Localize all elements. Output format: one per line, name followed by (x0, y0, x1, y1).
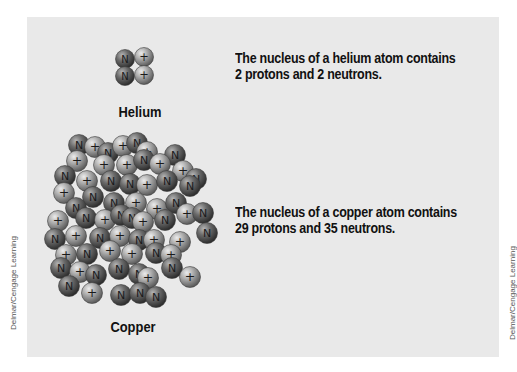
neutron-particle: N (86, 265, 107, 286)
neutron-particle: N (180, 176, 201, 197)
svg-text:N: N (121, 71, 128, 82)
proton-particle: + (137, 175, 158, 196)
svg-text:N: N (161, 214, 169, 227)
neutron-particle: N (76, 208, 97, 229)
neutron-particle: N (197, 223, 218, 244)
svg-text:N: N (126, 178, 134, 191)
neutron-particle: N (101, 171, 122, 192)
svg-text:+: + (185, 269, 196, 284)
credit-right: Delmar/Cengage Learning (508, 246, 517, 340)
proton-particle: + (82, 283, 103, 304)
svg-text:+: + (72, 153, 83, 168)
svg-text:N: N (51, 233, 59, 246)
svg-text:+: + (142, 177, 153, 192)
svg-text:N: N (92, 269, 100, 282)
neutron-particle: N (116, 50, 135, 69)
svg-text:N: N (199, 207, 207, 220)
svg-text:N: N (117, 289, 125, 302)
neutron-particle: N (59, 276, 80, 297)
svg-text:+: + (115, 228, 126, 243)
proton-particle: + (135, 48, 154, 67)
svg-text:N: N (171, 149, 179, 162)
svg-text:N: N (75, 139, 83, 152)
svg-text:N: N (107, 175, 115, 188)
proton-particle: + (180, 267, 201, 288)
svg-text:+: + (75, 264, 86, 279)
svg-text:N: N (82, 212, 90, 225)
svg-text:N: N (83, 248, 91, 261)
helium-caption-line1: The nucleus of a helium atom contains (235, 50, 455, 66)
neutron-particle: N (109, 259, 130, 280)
svg-text:N: N (152, 291, 160, 304)
svg-text:N: N (152, 247, 160, 260)
copper-label: Copper (108, 318, 158, 335)
svg-text:+: + (100, 212, 111, 227)
neutron-particle: N (146, 287, 167, 308)
svg-text:N: N (140, 154, 148, 167)
svg-text:N: N (115, 263, 123, 276)
svg-text:N: N (57, 262, 65, 275)
neutron-particle: N (111, 285, 132, 306)
svg-text:+: + (182, 206, 193, 221)
svg-text:N: N (61, 170, 69, 183)
helium-caption: The nucleus of a helium atom contains 2 … (235, 50, 455, 82)
copper-nucleus: N+N+N+N+++N++NN+NN+NN+NNN++N++N+NN+NNN+N… (45, 133, 218, 308)
proton-particle: + (135, 66, 154, 85)
svg-text:N: N (163, 175, 171, 188)
neutron-particle: N (155, 210, 176, 231)
neutron-particle: N (157, 171, 178, 192)
svg-text:N: N (65, 280, 73, 293)
helium-label: Helium (118, 103, 163, 120)
svg-text:+: + (138, 214, 149, 229)
svg-text:N: N (186, 180, 194, 193)
credit-left: Delmar/Cengage Learning (9, 236, 18, 330)
copper-caption: The nucleus of a copper atom contains 29… (235, 204, 457, 236)
neutron-particle: N (193, 203, 214, 224)
proton-particle: + (133, 212, 154, 233)
svg-text:N: N (203, 227, 211, 240)
svg-text:+: + (127, 246, 138, 261)
svg-text:+: + (71, 228, 82, 243)
helium-nucleus: N+N+ (116, 48, 154, 86)
svg-text:+: + (143, 270, 154, 285)
svg-text:N: N (121, 54, 128, 65)
svg-text:+: + (139, 68, 149, 82)
svg-text:+: + (53, 213, 64, 228)
svg-text:+: + (139, 50, 149, 64)
svg-text:+: + (155, 156, 166, 171)
svg-text:+: + (82, 173, 93, 188)
svg-text:N: N (89, 191, 97, 204)
svg-text:N: N (136, 287, 144, 300)
svg-text:+: + (99, 157, 110, 172)
proton-particle: + (48, 211, 69, 232)
helium-caption-line2: 2 protons and 2 neutrons. (235, 66, 455, 82)
proton-particle: + (66, 226, 87, 247)
svg-text:+: + (122, 157, 133, 172)
copper-caption-line2: 29 protons and 35 neutrons. (235, 220, 457, 236)
neutron-particle: N (116, 67, 135, 86)
svg-text:+: + (87, 285, 98, 300)
svg-text:+: + (59, 185, 70, 200)
copper-caption-line1: The nucleus of a copper atom contains (235, 204, 457, 220)
svg-text:N: N (168, 262, 176, 275)
svg-text:+: + (105, 243, 116, 258)
